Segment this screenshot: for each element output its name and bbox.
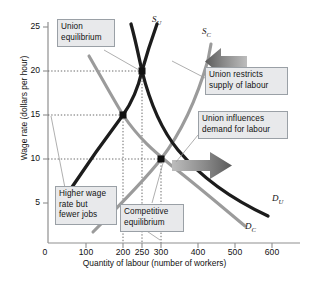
x-tick-100: 100 [74,247,98,257]
origin-tick-0: 0 [38,247,52,257]
x-tick-400: 400 [186,247,210,257]
y-tick-5: 5 [18,197,40,207]
chart-plot-area [0,0,309,289]
x-tick-600: 600 [260,247,284,257]
callout-union-equilibrium: Union equilibrium [57,19,115,47]
curve-label-du: DU [272,193,283,205]
callout-union-equilibrium-line1: Union [61,22,111,33]
callout-competitive-line1: Competitive [124,207,180,218]
callout-union-restricts-supply: Union restricts supply of labour [205,67,288,95]
curve-su [70,24,157,190]
callout-union-influences-line2: demand for labour [202,125,284,136]
callout-higher-wage-fewer-jobs: Higher wage rate but fewer jobs [55,186,117,225]
callout-competitive-equilibrium: Competitive equilibrium [120,204,184,232]
x-tick-500: 500 [223,247,247,257]
curve-label-dc-sub: C [252,226,256,233]
y-tick-25: 25 [18,21,40,31]
y-axis-ticks [43,27,48,203]
callout-competitive-line2: equilibrium [124,218,180,229]
callout-union-influences-demand: Union influences demand for labour [198,111,288,139]
callout-union-influences-line1: Union influences [202,114,284,125]
callout-union-restricts-line1: Union restricts [209,70,284,81]
curve-label-su-sub: U [157,19,162,26]
curve-label-du-sub: U [279,198,284,205]
callout-union-restricts-line2: supply of labour [209,81,284,92]
x-axis-title: Quantity of labour (number of workers) [0,258,309,268]
curve-label-sc: SC [202,26,211,38]
callout-higher-wage-line1: Higher wage [59,189,113,200]
curve-label-dc: DC [245,221,256,233]
callout-higher-wage-line3: fewer jobs [59,210,113,221]
callout-higher-wage-line2: rate but [59,200,113,211]
y-tick-10: 10 [18,153,40,163]
y-tick-15: 15 [18,109,40,119]
labour-market-union-chart: Wage rate (dollars per hour) Quantity of… [0,0,309,289]
curve-label-su: SU [152,14,161,26]
callout-union-equilibrium-line2: equilibrium [61,33,111,44]
y-tick-20: 20 [18,65,40,75]
x-tick-300: 300 [149,247,173,257]
curve-label-sc-sub: C [207,31,211,38]
